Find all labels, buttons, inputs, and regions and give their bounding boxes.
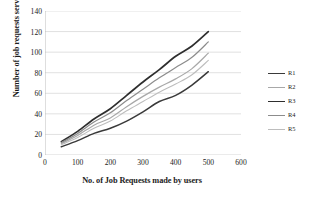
- legend-label: R1: [288, 70, 295, 76]
- x-axis-tick-labels: 0100200300400500600: [45, 158, 241, 170]
- y-tick-label: 0: [38, 151, 42, 160]
- y-tick-label: 120: [31, 27, 42, 36]
- x-tick-label: 500: [203, 158, 214, 167]
- chart-legend: R1R2R3R4R5: [268, 66, 312, 136]
- x-axis-title: No. of Job Requests made by users: [38, 176, 246, 185]
- legend-item-r5[interactable]: R5: [268, 122, 312, 136]
- series-line-r3: [61, 32, 208, 142]
- x-tick-label: 100: [72, 158, 83, 167]
- legend-item-r2[interactable]: R2: [268, 80, 312, 94]
- legend-label: R5: [288, 126, 295, 132]
- x-tick-label: 600: [235, 158, 246, 167]
- legend-label: R4: [288, 112, 295, 118]
- legend-item-r3[interactable]: R3: [268, 94, 312, 108]
- legend-label: R2: [288, 84, 295, 90]
- x-tick-label: 400: [170, 158, 181, 167]
- y-axis-tick-labels: 020406080100120140: [14, 11, 42, 155]
- legend-swatch-r4: [268, 115, 285, 116]
- line-chart: Number of job requests served 0204060801…: [0, 0, 313, 197]
- y-tick-label: 100: [31, 48, 42, 57]
- x-tick-label: 0: [43, 158, 47, 167]
- legend-swatch-r3: [268, 101, 285, 102]
- y-tick-label: 60: [34, 89, 42, 98]
- legend-item-r4[interactable]: R4: [268, 108, 312, 122]
- series-line-r1: [61, 72, 208, 147]
- legend-swatch-r5: [268, 129, 285, 130]
- x-tick-label: 300: [137, 158, 148, 167]
- y-tick-label: 140: [31, 7, 42, 16]
- x-tick-label: 200: [105, 158, 116, 167]
- legend-item-r1[interactable]: R1: [268, 66, 312, 80]
- legend-label: R3: [288, 98, 295, 104]
- plot-svg: [45, 11, 241, 155]
- legend-swatch-r1: [268, 73, 285, 74]
- y-tick-label: 40: [34, 109, 42, 118]
- legend-swatch-r2: [268, 87, 285, 88]
- y-tick-label: 20: [34, 130, 42, 139]
- y-tick-label: 80: [34, 68, 42, 77]
- plot-area: [45, 11, 241, 155]
